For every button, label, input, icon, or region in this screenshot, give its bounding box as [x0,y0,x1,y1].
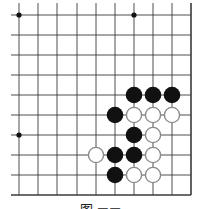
black-stone [145,87,162,104]
white-stone [145,147,160,162]
star-point [16,132,21,137]
white-stone [126,107,141,122]
black-stone [164,87,181,104]
caption-text: 图 ▬▬ [80,203,122,209]
black-stone [107,107,124,124]
white-stone [145,107,160,122]
star-point [131,12,136,17]
white-stone [88,147,103,162]
black-stone [126,147,143,164]
black-stone [107,147,124,164]
black-stone [126,127,143,144]
star-point [16,12,21,17]
white-stone [145,127,160,142]
black-stone [107,167,124,184]
white-stone [145,167,160,182]
white-stone [126,167,141,182]
grid-lines [11,3,191,195]
diagram-caption: 图 ▬▬ [0,203,201,209]
black-stone [126,87,143,104]
go-board [0,0,201,203]
white-stone [164,107,179,122]
